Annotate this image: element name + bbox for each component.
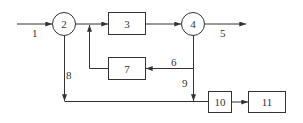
node-2: 2 xyxy=(53,13,76,36)
node-3: 3 xyxy=(109,13,146,35)
stream-1-label: 1 xyxy=(32,27,38,39)
stream-8-label: 8 xyxy=(66,69,72,81)
node-10-label: 10 xyxy=(215,96,227,108)
process-flow-diagram: 1 2 3 4 5 6 7 8 9 10 xyxy=(0,0,303,123)
stream-6-arrow xyxy=(146,36,194,69)
stream-6-label: 6 xyxy=(171,56,177,68)
node-11-label: 11 xyxy=(262,96,273,108)
node-4-label: 4 xyxy=(190,18,196,30)
node-3-label: 3 xyxy=(124,18,130,30)
node-2-label: 2 xyxy=(61,18,67,30)
node-10: 10 xyxy=(209,92,232,113)
node-11: 11 xyxy=(249,92,286,113)
edge-7-recycle xyxy=(90,25,109,69)
node-7-label: 7 xyxy=(124,63,130,75)
node-4: 4 xyxy=(182,13,205,36)
stream-5-label: 5 xyxy=(220,27,226,39)
stream-9-label: 9 xyxy=(182,77,188,89)
node-7: 7 xyxy=(109,58,146,80)
